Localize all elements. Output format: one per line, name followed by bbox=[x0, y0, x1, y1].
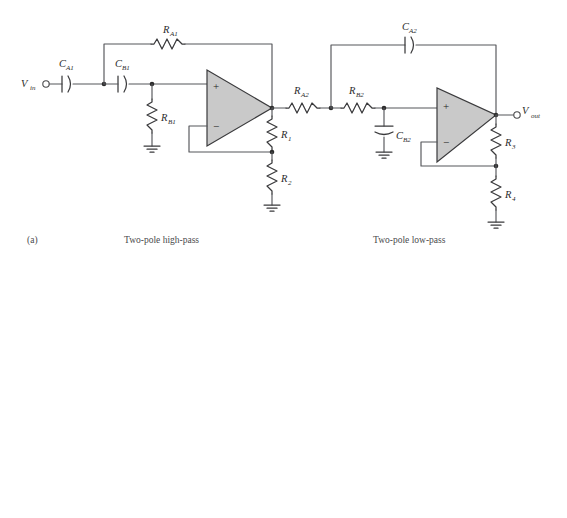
opamp-U2-minus-input: − bbox=[443, 136, 449, 148]
resistor-RA2 bbox=[286, 103, 320, 113]
resistor-R1-label-sub: 1 bbox=[288, 135, 292, 143]
resistor-RB2-label: R bbox=[348, 85, 356, 96]
resistor-RB1-label-sub: B1 bbox=[168, 118, 176, 126]
resistor-R1-label: R bbox=[280, 129, 288, 140]
capacitor-CB1-label-sub: B1 bbox=[122, 64, 130, 72]
opamp-U1-minus-input: − bbox=[213, 120, 219, 132]
capacitor-CA2 bbox=[405, 37, 414, 53]
output-label: V bbox=[522, 105, 530, 116]
resistor-R4 bbox=[491, 176, 501, 210]
resistor-R2 bbox=[267, 160, 277, 194]
caption-low-pass: Two-pole low-pass bbox=[373, 235, 446, 245]
input-terminal bbox=[43, 81, 49, 87]
input-label-sub: in bbox=[30, 84, 36, 92]
ground-symbol-r2 bbox=[264, 205, 280, 211]
resistor-R3-label-sub: 3 bbox=[511, 143, 516, 151]
capacitor-CB1 bbox=[118, 76, 127, 92]
wire-n3-to-ca2 bbox=[331, 45, 405, 108]
resistor-R1 bbox=[267, 116, 277, 150]
ground-symbol-rb1 bbox=[144, 146, 160, 152]
chart-panel-b: A v f 0 dB −3 dB f C1 f 0 f C2 Low-pass … bbox=[0, 258, 567, 518]
resistor-R2-label: R bbox=[280, 173, 288, 184]
resistor-RA1-label-sub: A1 bbox=[169, 30, 178, 38]
figure-two-pole-bandpass: V in C A1 C B1 R B1 bbox=[0, 0, 567, 518]
resistor-RB1-label: R bbox=[160, 112, 168, 123]
resistor-R2-label-sub: 2 bbox=[288, 179, 292, 187]
resistor-R3 bbox=[491, 124, 501, 158]
resistor-RB2-label-sub: B2 bbox=[356, 91, 364, 99]
input-label: V bbox=[21, 78, 29, 89]
panel-a-tag: (a) bbox=[27, 235, 38, 246]
resistor-RA2-label: R bbox=[293, 85, 301, 96]
schematic-panel-a: V in C A1 C B1 R B1 bbox=[0, 0, 567, 258]
resistor-RB1 bbox=[147, 99, 157, 133]
capacitor-CA2-label-sub: A2 bbox=[408, 27, 417, 35]
ground-symbol-cb2 bbox=[376, 152, 392, 158]
capacitor-CA1-label-sub: A1 bbox=[65, 64, 74, 72]
resistor-R3-label: R bbox=[504, 137, 512, 148]
output-terminal bbox=[514, 112, 520, 118]
capacitor-CB2-label-sub: B2 bbox=[403, 136, 411, 144]
output-label-sub: out bbox=[531, 112, 541, 120]
resistor-RA2-label-sub: A2 bbox=[300, 91, 309, 99]
capacitor-CB2 bbox=[375, 126, 393, 135]
opamp-U1-plus-input: + bbox=[213, 80, 219, 92]
resistor-RB2 bbox=[341, 103, 375, 113]
caption-high-pass: Two-pole high-pass bbox=[124, 235, 199, 245]
resistor-RA1 bbox=[151, 39, 185, 49]
ground-symbol-r4 bbox=[488, 222, 504, 228]
opamp-U2-plus-input: + bbox=[443, 100, 449, 112]
capacitor-CA1 bbox=[62, 76, 71, 92]
resistor-RA1-label: R bbox=[162, 24, 170, 35]
resistor-R4-label-sub: 4 bbox=[512, 195, 516, 203]
resistor-R4-label: R bbox=[504, 189, 512, 200]
